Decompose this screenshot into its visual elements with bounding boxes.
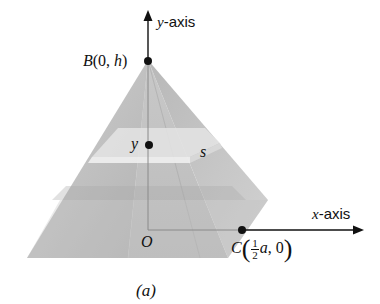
apex-point-label: B(0, h)	[83, 53, 127, 69]
base-point-c-dot	[238, 226, 246, 234]
cross-section-side-label: s	[200, 144, 206, 160]
fraction-one-half: 12	[251, 238, 259, 261]
x-axis-arrow-icon	[353, 226, 364, 235]
pyramid-figure	[0, 0, 380, 304]
open-paren: (	[242, 234, 251, 263]
apex-point-b-dot	[144, 57, 152, 65]
x-axis-label: x-axis	[312, 206, 350, 222]
pyramid-diagram: y-axis B(0, h) y s x-axis O C(12a, 0) (a…	[0, 0, 380, 304]
origin-label: O	[141, 234, 153, 250]
close-paren: )	[284, 234, 293, 263]
base-point-label: C(12a, 0)	[231, 236, 293, 262]
figure-caption: (a)	[136, 282, 156, 299]
cross-section-center-dot	[145, 141, 153, 149]
y-axis-arrow-icon	[144, 10, 153, 21]
y-axis-label: y-axis	[157, 14, 195, 30]
cross-section-height-label: y	[131, 136, 138, 152]
